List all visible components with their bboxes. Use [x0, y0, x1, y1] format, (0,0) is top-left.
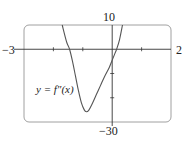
x-min-label: −3 [2, 43, 15, 57]
x-max-label: 2 [176, 43, 182, 57]
y-min-label: −30 [99, 124, 118, 138]
function-label: y = f″(x) [35, 83, 74, 96]
chart: −3 2 10 −30 y = f″(x) [0, 0, 189, 144]
y-max-label: 10 [103, 10, 115, 24]
plot-frame [24, 25, 171, 122]
series-line-f-double-prime [62, 25, 122, 112]
